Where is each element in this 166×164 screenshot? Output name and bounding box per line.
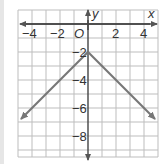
y-tick-label: −6 bbox=[72, 101, 87, 116]
coordinate-plane: −4 −2 O 2 4 −2 −4 −6 −8 y x bbox=[0, 0, 166, 164]
y-tick-label: −4 bbox=[72, 73, 87, 88]
x-tick-label: −4 bbox=[22, 26, 37, 41]
axes bbox=[20, 10, 157, 160]
y-tick-label: −2 bbox=[72, 45, 87, 60]
origin-label: O bbox=[74, 26, 84, 41]
y-tick-label: −8 bbox=[72, 129, 87, 144]
x-tick-label: 4 bbox=[140, 26, 147, 41]
x-axis-label: x bbox=[147, 6, 155, 21]
x-tick-label: −2 bbox=[50, 26, 65, 41]
x-tick-label: 2 bbox=[112, 26, 119, 41]
y-axis-label: y bbox=[91, 6, 100, 21]
